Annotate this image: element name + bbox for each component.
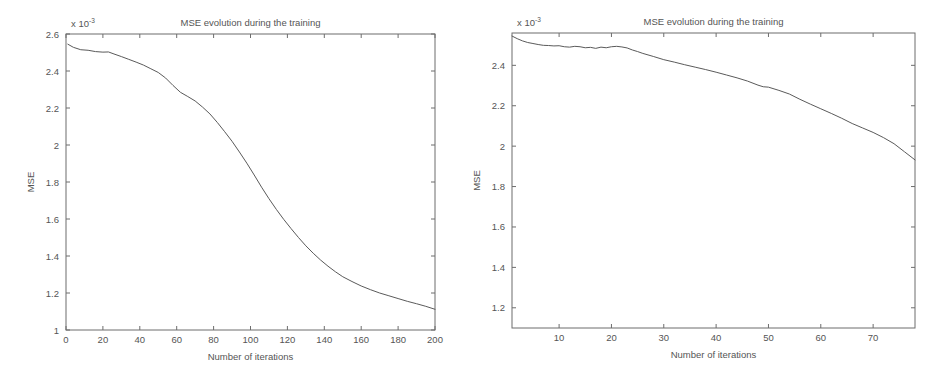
y-tick-label: 1.6 xyxy=(46,214,59,225)
x-axis-label: Number of iterations xyxy=(671,349,757,360)
y-axis-label: MSE xyxy=(473,170,482,191)
x-tick-label: 0 xyxy=(63,334,68,345)
mse-curve xyxy=(68,44,435,309)
chart-title: MSE evolution during the training xyxy=(644,16,784,27)
x-tick-label: 100 xyxy=(243,334,259,345)
x-tick-label: 180 xyxy=(390,334,406,345)
x-tick-label: 40 xyxy=(135,334,146,345)
y-axis-exponent: x 10-3 xyxy=(71,17,95,29)
y-tick-label: 2.4 xyxy=(492,60,505,71)
y-tick-label: 1 xyxy=(54,325,59,336)
y-axis-exponent-base: x 10 xyxy=(517,17,535,28)
x-tick-label: 20 xyxy=(98,334,109,345)
x-tick-label: 10 xyxy=(554,332,565,343)
y-tick-label: 1.6 xyxy=(492,221,505,232)
x-tick-label: 30 xyxy=(658,332,669,343)
x-tick-label: 200 xyxy=(427,334,443,345)
x-axis-label: Number of iterations xyxy=(208,351,294,362)
y-tick-label: 2 xyxy=(54,140,59,151)
chart-panel-left: 02040608010012014016018020011.21.41.61.8… xyxy=(0,0,473,373)
x-tick-label: 160 xyxy=(353,334,369,345)
x-tick-label: 120 xyxy=(279,334,295,345)
x-tick-label: 60 xyxy=(171,334,182,345)
y-tick-label: 2.2 xyxy=(46,103,59,114)
y-tick-label: 1.2 xyxy=(46,288,59,299)
y-tick-label: 2.6 xyxy=(46,29,59,40)
x-tick-label: 140 xyxy=(316,334,332,345)
y-tick-label: 1.8 xyxy=(492,181,505,192)
mse-curve xyxy=(512,36,915,160)
y-axis-exponent: x 10-3 xyxy=(517,16,541,28)
y-axis-exponent-power: -3 xyxy=(89,17,95,24)
axes-box xyxy=(512,33,915,328)
y-tick-label: 1.2 xyxy=(492,302,505,313)
y-tick-label: 2 xyxy=(500,141,505,152)
x-tick-label: 60 xyxy=(816,332,827,343)
y-tick-label: 1.4 xyxy=(46,251,59,262)
y-axis-label: MSE xyxy=(25,172,36,193)
x-tick-label: 20 xyxy=(606,332,617,343)
y-tick-label: 2.2 xyxy=(492,100,505,111)
axes-box xyxy=(66,34,435,330)
mse-training-figure: 02040608010012014016018020011.21.41.61.8… xyxy=(0,0,947,373)
chart-title: MSE evolution during the training xyxy=(181,17,321,28)
mse-chart-right: 102030405060701.21.41.61.822.22.4x 10-3M… xyxy=(473,0,947,373)
mse-chart-left: 02040608010012014016018020011.21.41.61.8… xyxy=(0,0,473,373)
y-axis-exponent-base: x 10 xyxy=(71,18,89,29)
y-tick-label: 2.4 xyxy=(46,66,59,77)
y-tick-label: 1.8 xyxy=(46,177,59,188)
y-tick-label: 1.4 xyxy=(492,262,505,273)
x-tick-label: 80 xyxy=(208,334,219,345)
x-tick-label: 50 xyxy=(763,332,774,343)
x-tick-label: 40 xyxy=(711,332,722,343)
chart-panel-right: 102030405060701.21.41.61.822.22.4x 10-3M… xyxy=(473,0,947,373)
x-tick-label: 70 xyxy=(868,332,879,343)
y-axis-exponent-power: -3 xyxy=(535,16,541,23)
